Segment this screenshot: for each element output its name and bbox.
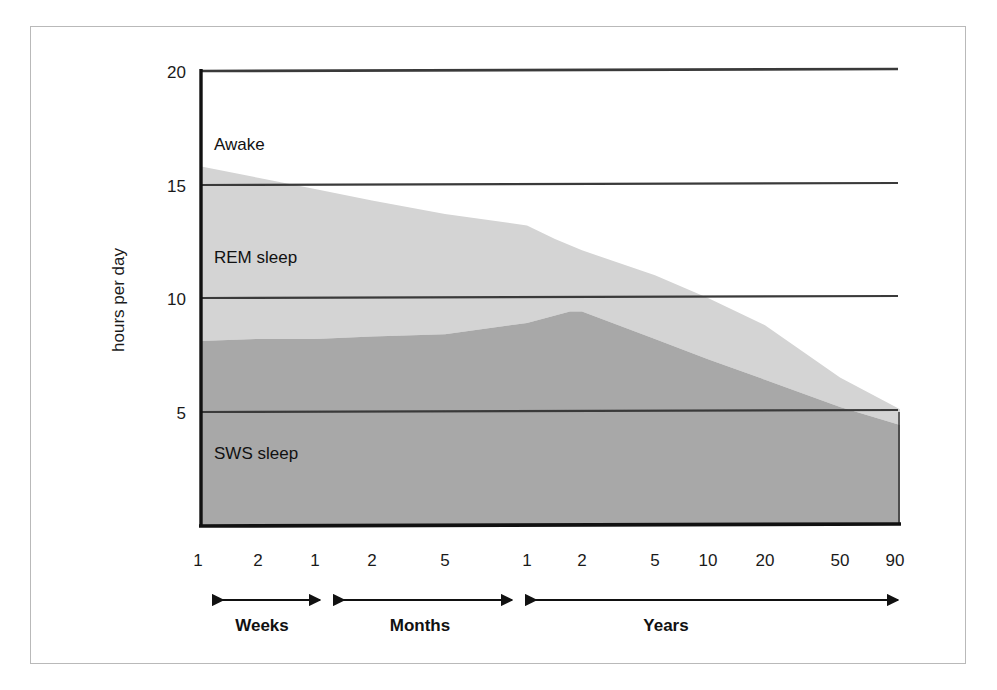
x-tick-label-7: 5 [650, 551, 659, 570]
x-tick-label-11: 90 [886, 551, 905, 570]
y-tick-label-5: 5 [177, 404, 186, 423]
x-tick-label-1: 2 [253, 551, 262, 570]
sws-sleep-band [200, 312, 900, 525]
x-axis-line [199, 524, 901, 526]
awake-band-label: Awake [214, 135, 265, 154]
x-tick-label-2: 1 [310, 551, 319, 570]
rem-band-label: REM sleep [214, 248, 297, 267]
x-tick-label-8: 10 [699, 551, 718, 570]
y-tick-label-15: 15 [167, 177, 186, 196]
y-tick-label-20: 20 [167, 63, 186, 82]
x-tick-label-10: 50 [831, 551, 850, 570]
x-tick-label-6: 2 [577, 551, 586, 570]
sws-band-label: SWS sleep [214, 444, 298, 463]
x-tick-label-0: 1 [193, 551, 202, 570]
y-axis-title: hours per day [109, 248, 128, 352]
gridline-15 [200, 183, 898, 185]
era-label-months: Months [390, 616, 450, 635]
era-label-weeks: Weeks [235, 616, 289, 635]
x-tick-label-5: 1 [522, 551, 531, 570]
chart-stage: 20 15 10 5 hours per day Awake REM sleep… [0, 0, 997, 690]
gridline-20 [200, 69, 898, 71]
x-tick-label-9: 20 [756, 551, 775, 570]
y-tick-label-10: 10 [167, 290, 186, 309]
x-tick-label-4: 5 [440, 551, 449, 570]
sleep-stages-area-chart: 20 15 10 5 hours per day Awake REM sleep… [0, 0, 997, 690]
x-tick-label-3: 2 [367, 551, 376, 570]
era-label-years: Years [643, 616, 688, 635]
